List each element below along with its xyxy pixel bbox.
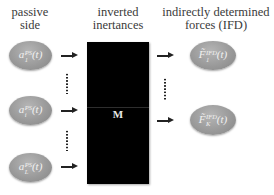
node-symbol: a — [19, 48, 25, 60]
node-argument: (t) — [32, 103, 42, 115]
header-ifd: indirectly determined forces (IFD) — [158, 6, 274, 32]
header-passive-side: passive side — [0, 6, 60, 32]
node-superscript: PS — [25, 49, 32, 56]
node-symbol: a — [19, 103, 25, 115]
arrow-right-icon — [61, 110, 73, 112]
arrow-right-icon — [61, 166, 73, 168]
node-superscript: IFD — [206, 49, 217, 56]
header-passive-side-line2: side — [0, 19, 60, 32]
passive-node-i: aPSi(t) — [9, 96, 52, 125]
ellipsis-vertical-icon — [66, 130, 68, 151]
node-symbol: F̃ — [199, 48, 206, 60]
passive-node-L: aPSL(t) — [9, 153, 52, 182]
node-symbol: a — [19, 160, 25, 172]
node-subscript: 1 — [25, 56, 32, 63]
ifd-node-K: F̃IFDK(t) — [190, 105, 236, 135]
inverted-inertance-matrix: M — [87, 42, 149, 184]
arrow-right-icon — [157, 55, 169, 57]
header-ifd-line2: forces (IFD) — [158, 19, 274, 32]
node-subscript: i — [25, 111, 32, 118]
arrow-right-icon — [157, 120, 169, 122]
node-superscript: PS — [25, 161, 32, 168]
node-argument: (t) — [32, 160, 42, 172]
passive-node-1: aPS1(t) — [9, 41, 52, 70]
ellipsis-vertical-icon — [66, 73, 68, 94]
node-superscript: IFD — [206, 113, 217, 120]
node-subscript: K — [206, 120, 217, 127]
ifd-node-1: F̃IFD1(t) — [190, 41, 236, 70]
node-argument: (t) — [217, 48, 227, 60]
header-inverted-inertances-line2: inertances — [82, 19, 154, 32]
node-subscript: 1 — [206, 56, 217, 63]
node-superscript: PS — [25, 104, 32, 111]
node-argument: (t) — [217, 113, 227, 125]
ellipsis-vertical-icon — [164, 78, 166, 100]
arrow-right-icon — [61, 55, 73, 57]
matrix-label: M — [87, 108, 149, 120]
node-symbol: F̃ — [199, 113, 206, 125]
node-argument: (t) — [32, 48, 42, 60]
header-inverted-inertances: inverted inertances — [82, 6, 154, 32]
node-subscript: L — [25, 168, 32, 175]
